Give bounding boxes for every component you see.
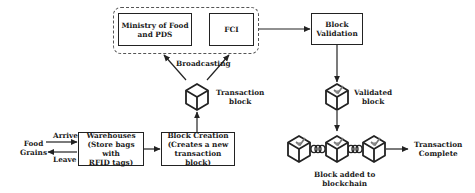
block-added-label: Block added to blockchain bbox=[314, 170, 375, 188]
broadcasting-label: Broadcasting bbox=[176, 59, 231, 68]
transaction-complete-line-1: Transaction bbox=[414, 140, 462, 149]
validated-block-label-line-2: block bbox=[354, 97, 392, 106]
warehouses-line-2: (Store bags with bbox=[79, 140, 143, 158]
validated-block-cube-icon bbox=[326, 84, 348, 110]
transaction-block-label: Transaction block bbox=[216, 88, 264, 106]
ministry-label-line-2: and PDS bbox=[121, 30, 188, 39]
transaction-block-label-line-1: Transaction bbox=[216, 88, 264, 97]
warehouses-node: Warehouses (Store bags with RFID tags) bbox=[78, 132, 144, 166]
food-grains-label: Food Grains bbox=[20, 139, 47, 157]
block-added-line-1: Block added to bbox=[314, 170, 375, 179]
arrive-label: Arrive bbox=[53, 131, 78, 140]
warehouses-line-3: RFID tags) bbox=[79, 158, 143, 167]
warehouses-line-1: Warehouses bbox=[79, 131, 143, 140]
transaction-complete-label: Transaction Complete bbox=[414, 140, 462, 158]
validated-block-label-line-1: Validated bbox=[354, 88, 392, 97]
ministry-label-line-1: Ministry of Food bbox=[121, 21, 188, 30]
chain-block-3-icon bbox=[363, 136, 385, 162]
block-validation-node: Block Validation bbox=[311, 13, 363, 45]
fci-node: FCI bbox=[209, 13, 254, 46]
transaction-block-cube-icon bbox=[186, 84, 208, 110]
block-validation-line-1: Block bbox=[316, 20, 357, 29]
validated-block-label: Validated block bbox=[354, 88, 392, 106]
food-grains-line-2: Grains bbox=[20, 148, 47, 157]
block-creation-line-2: (Creates a new bbox=[162, 140, 234, 149]
transaction-block-label-line-2: block bbox=[216, 97, 264, 106]
block-creation-line-3: transaction block) bbox=[162, 149, 234, 167]
leave-label: Leave bbox=[53, 155, 76, 164]
block-creation-node: Block Creation (Creates a new transactio… bbox=[161, 132, 235, 166]
ministry-node: Ministry of Food and PDS bbox=[118, 13, 192, 46]
chain-block-1-icon bbox=[288, 136, 310, 162]
chain-block-2-icon bbox=[326, 136, 348, 162]
block-added-line-2: blockchain bbox=[314, 179, 375, 188]
blockchain-icon bbox=[288, 136, 385, 162]
fci-label: FCI bbox=[224, 25, 238, 34]
block-validation-line-2: Validation bbox=[316, 29, 357, 38]
transaction-complete-line-2: Complete bbox=[414, 149, 462, 158]
block-creation-line-1: Block Creation bbox=[162, 131, 234, 140]
food-grains-line-1: Food bbox=[20, 139, 47, 148]
blockchain-food-supply-diagram: Ministry of Food and PDS FCI Block Valid… bbox=[0, 0, 475, 193]
